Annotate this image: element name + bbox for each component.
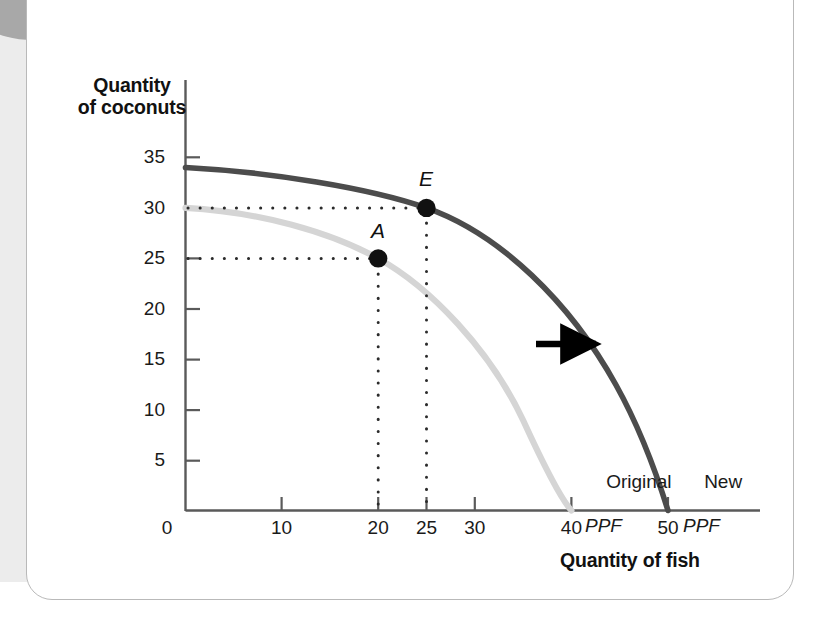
original-ppf-label-line2: PPF [585,515,672,537]
x-tick-label-30: 30 [452,517,498,539]
point-a-marker [369,249,387,267]
y-tick-label-20: 20 [125,298,165,320]
y-tick-label-35: 35 [125,146,165,168]
x-tick-label-25: 25 [404,517,450,539]
y-tick-label-15: 15 [125,348,165,370]
figure-root: Quantity of coconuts Quantity of fish 35… [0,0,829,623]
y-tick-label-25: 25 [125,247,165,269]
original-ppf-label: Original PPF [585,449,672,581]
new-ppf-label: New PPF [683,449,742,581]
new-ppf-label-line2: PPF [683,515,742,537]
x-tick-label-0: 0 [144,517,190,539]
x-tick-label-20: 20 [355,517,401,539]
point-e-marker [417,199,435,217]
guide-lines [188,208,427,509]
y-axis-title: Quantity of coconuts [56,74,208,118]
point-a-label: A [371,219,385,243]
new-ppf-label-line1: New [704,471,742,492]
y-tick-label-30: 30 [125,197,165,219]
x-tick-label-10: 10 [259,517,305,539]
original-ppf-label-line1: Original [606,471,671,492]
point-e-label: E [419,167,433,191]
y-axis-ticks [185,157,200,460]
y-tick-label-5: 5 [125,449,165,471]
y-tick-label-10: 10 [125,399,165,421]
